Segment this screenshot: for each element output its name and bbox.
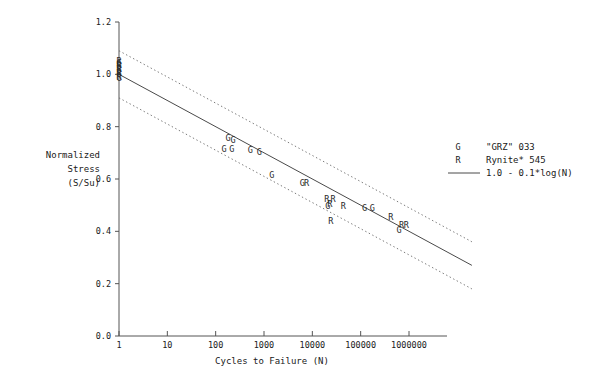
- y-tick-label: 1.0: [96, 69, 111, 79]
- x-tick-label: 100000: [345, 340, 376, 350]
- x-axis-title: Cycles to Failure (N): [215, 356, 329, 366]
- y-axis-title-line-1: Normalized: [46, 150, 100, 160]
- legend: G"GRZ" 033RRynite* 5451.0 - 0.1*log(N): [448, 142, 573, 178]
- data-point-R: R: [304, 178, 310, 188]
- upper-confidence-band: [119, 51, 472, 242]
- data-point-R: R: [328, 216, 334, 226]
- data-point-G: G: [229, 144, 234, 154]
- data-point-G: G: [269, 170, 274, 180]
- legend-marker-R: R: [455, 155, 461, 165]
- x-tick-label: 1: [116, 340, 121, 350]
- y-axis-title-line-3: (S/Su): [67, 178, 100, 188]
- legend-label: 1.0 - 0.1*log(N): [486, 168, 573, 178]
- fatigue-sn-chart: 0.00.20.40.60.81.01.2 110100100010000100…: [0, 0, 601, 384]
- fit-line: [119, 74, 472, 265]
- data-point-R: R: [404, 220, 410, 230]
- y-tick-label: 1.2: [96, 17, 111, 27]
- data-point-R: R: [388, 212, 394, 222]
- x-axis: 1101001000100001000001000000: [116, 331, 447, 350]
- data-point-R: R: [341, 201, 347, 211]
- data-points-group: GGGGGGGGGGGGGGGGGRRRRRRRRRRRRRR: [116, 56, 409, 235]
- data-point-G: G: [370, 203, 375, 213]
- legend-marker-G: G: [455, 142, 460, 152]
- x-tick-label: 10000: [300, 340, 326, 350]
- data-point-G: G: [257, 147, 262, 157]
- y-tick-label: 0.2: [96, 279, 111, 289]
- data-point-R: R: [327, 199, 333, 209]
- y-tick-label: 0.8: [96, 122, 111, 132]
- data-point-G: G: [362, 203, 367, 213]
- legend-label: "GRZ" 033: [486, 142, 535, 152]
- x-tick-label: 1000000: [391, 340, 427, 350]
- y-axis-title-line-2: Stress: [67, 164, 100, 174]
- y-tick-label: 0.0: [96, 331, 111, 341]
- data-point-R: R: [116, 72, 122, 82]
- lower-confidence-band: [119, 98, 472, 289]
- x-tick-label: 10: [162, 340, 172, 350]
- legend-label: Rynite* 545: [486, 155, 546, 165]
- x-tick-group: 1101001000100001000001000000: [116, 331, 426, 350]
- data-point-G: G: [222, 144, 227, 154]
- chart-canvas: 0.00.20.40.60.81.01.2 110100100010000100…: [0, 0, 601, 384]
- y-axis-title: Normalized Stress (S/Su): [46, 150, 100, 188]
- x-tick-label: 100: [208, 340, 223, 350]
- x-tick-label: 1000: [254, 340, 274, 350]
- data-point-G: G: [248, 145, 253, 155]
- y-tick-label: 0.4: [96, 226, 111, 236]
- fit-line-group: [119, 74, 472, 265]
